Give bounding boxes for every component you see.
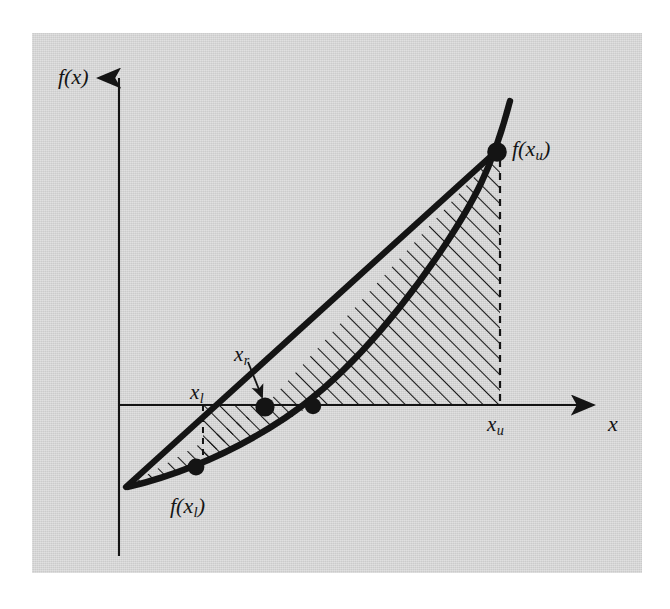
hatched-region-right xyxy=(110,130,530,520)
x-lower-label-base: x xyxy=(190,380,199,404)
x-root-label: xr xyxy=(234,344,249,367)
marker-upper-bracket-point xyxy=(487,142,507,162)
upper-point-label-sub: u xyxy=(535,147,543,163)
upper-point-label: f(xu) xyxy=(512,138,550,163)
plot-svg xyxy=(0,0,670,609)
x-upper-label-base: x xyxy=(487,412,496,436)
figure-root: f(x) x f(xu) f(xl) xl xr xu xyxy=(0,0,670,609)
x-axis-label: x xyxy=(608,413,618,435)
marker-root-estimate-point xyxy=(255,397,274,416)
x-upper-label-sub: u xyxy=(496,422,503,438)
y-axis-label: f(x) xyxy=(58,66,89,88)
lower-point-label: f(xl) xyxy=(170,495,205,520)
x-root-label-sub: r xyxy=(243,352,249,368)
x-upper-label: xu xyxy=(487,414,504,437)
upper-point-label-close: ) xyxy=(543,136,550,161)
x-root-label-base: x xyxy=(234,342,243,366)
marker-true-root-point xyxy=(305,398,321,414)
upper-point-label-base: f(x xyxy=(512,136,535,161)
lower-point-label-base: f(x xyxy=(170,493,193,518)
x-lower-label-sub: l xyxy=(199,390,203,406)
marker-lower-bracket-point xyxy=(188,459,205,476)
lower-point-label-close: ) xyxy=(198,493,205,518)
x-lower-label: xl xyxy=(190,382,204,405)
